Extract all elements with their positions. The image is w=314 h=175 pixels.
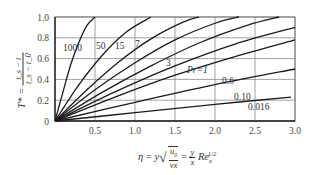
y-tick-label: 0 <box>44 117 49 127</box>
curve-label: 1000 <box>63 43 82 53</box>
curve-label: 7 <box>135 39 140 49</box>
x-axis-label: η = y√u0νx = y x Rex1/2 <box>138 146 216 170</box>
x-label-sqrt: u0νx <box>168 146 179 170</box>
curve-label: 50 <box>96 41 106 51</box>
x-label-frac-x: x <box>189 158 195 167</box>
x-tick-label: 2.0 <box>209 126 221 136</box>
y-tick-label: 0.6 <box>37 54 49 64</box>
tick-labels: 0.51.01.52.02.53.000.20.40.60.81.0 <box>37 13 301 137</box>
x-tick-label: 2.5 <box>249 126 261 136</box>
x-label-re-sub: x <box>209 157 212 164</box>
y-label-equals: = <box>16 88 27 95</box>
x-tick-label: 1.0 <box>129 126 141 136</box>
x-label-u0: u0 <box>169 147 179 161</box>
curve-label: 15 <box>115 41 125 51</box>
x-label-re-sup: 1/2 <box>208 150 216 157</box>
x-label-equals-2: = <box>181 151 187 162</box>
sqrt-icon: √ <box>159 150 167 165</box>
y-axis-label: T* = t_s − t t_s − t_0 <box>6 40 36 110</box>
x-tick-label: 0.5 <box>89 126 101 136</box>
curve-label: 0.10 <box>234 92 251 102</box>
curve-label: 0.016 <box>248 102 270 112</box>
curve-pr-15 <box>55 17 199 121</box>
x-label-yx-fraction: y x <box>189 148 195 167</box>
curve-labels: 1000501573Pr=10.60.100.016 <box>63 39 270 112</box>
x-label-u-sub: 0 <box>174 152 177 158</box>
x-label-equals: = <box>146 151 152 162</box>
y-tick-label: 0.8 <box>37 33 49 43</box>
y-tick-label: 0.2 <box>37 96 49 106</box>
curve-label: 3 <box>166 58 171 68</box>
x-label-sqrt-fraction: u0νx <box>169 147 179 170</box>
x-tick-label: 3.0 <box>289 126 301 136</box>
y-label-fraction: t_s − t t_s − t_0 <box>14 52 33 85</box>
y-label-denominator: t_s − t_0 <box>24 52 33 85</box>
x-tick-label: 1.5 <box>169 126 181 136</box>
y-label-symbol: T* <box>16 97 27 108</box>
y-tick-label: 1.0 <box>37 13 49 23</box>
curve-label: 0.6 <box>222 76 234 86</box>
y-tick-label: 0.4 <box>37 75 49 85</box>
x-label-nux: νx <box>169 161 179 170</box>
curve-label: Pr=1 <box>186 65 208 75</box>
x-label-eta: η <box>138 151 143 162</box>
